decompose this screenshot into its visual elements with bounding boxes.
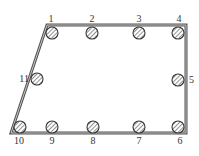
rebar-7 — [133, 121, 145, 133]
rebar-label-8: 8 — [91, 135, 96, 146]
rebar-label-10: 10 — [14, 135, 24, 146]
rebar-label-4: 4 — [177, 13, 182, 24]
rebar-label-11: 11 — [19, 73, 29, 84]
rebar-label-3: 3 — [137, 13, 142, 24]
rebar-4 — [172, 27, 184, 39]
rebar-11 — [31, 73, 43, 85]
rebar-10 — [14, 121, 26, 133]
rebar-label-5: 5 — [189, 74, 194, 85]
rebar-label-1: 1 — [49, 13, 54, 24]
rebar-8 — [87, 121, 99, 133]
rebar-9 — [46, 121, 58, 133]
rebar-label-9: 9 — [50, 135, 55, 146]
rebar-label-7: 7 — [137, 135, 142, 146]
rebar-6 — [172, 121, 184, 133]
rebar-2 — [86, 27, 98, 39]
rebar-label-6: 6 — [178, 135, 183, 146]
section-diagram: 1234567891011 — [0, 0, 199, 156]
rebar-label-2: 2 — [90, 13, 95, 24]
rebar-1 — [46, 27, 58, 39]
rebar-5 — [172, 74, 184, 86]
rebar-3 — [133, 27, 145, 39]
